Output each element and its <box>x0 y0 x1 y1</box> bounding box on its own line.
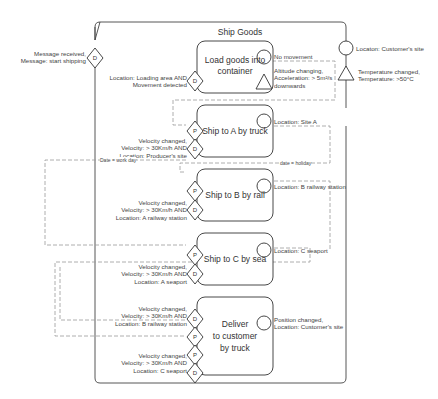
exit-label-deliver: Position changed, Location: Customer's s… <box>274 316 343 331</box>
flow-label-holiday: date = holiday <box>280 160 311 167</box>
entry-symbol: D <box>190 206 200 214</box>
port-symbol: P <box>190 333 200 341</box>
end-event-label: Locaton: Customer's site <box>356 45 424 52</box>
entry-symbol: D <box>190 77 200 85</box>
port-symbol: P <box>190 351 200 359</box>
entry-symbol: D <box>190 145 200 153</box>
entry-symbol: D <box>190 369 200 377</box>
port-symbol: P <box>190 251 200 259</box>
entry-label-truck: Velocity changed, Velocity: > 30Km/h AND… <box>119 137 187 159</box>
port-symbol: P <box>190 187 200 195</box>
exception-label: Temperature changed, Temperature: >50°C <box>358 68 420 83</box>
activity-title-sea[interactable]: Ship to C by sea <box>200 254 270 265</box>
exit-label-rail: Location: B railway station <box>274 183 346 190</box>
flow-label-work-day: Date = work day <box>100 157 136 164</box>
activity-title-rail[interactable]: Ship to B by rail <box>200 190 270 201</box>
exit-label-load: No movement <box>274 53 313 60</box>
exception-label-load: Altitude changing, Acceleration: > 5m²/s… <box>274 67 332 89</box>
activity-title-truck[interactable]: Ship to A by truck <box>200 126 270 137</box>
port-symbol: P <box>190 127 200 135</box>
activity-title-load[interactable]: Load goods into container <box>200 55 270 77</box>
entry-label-deliver-sea: Velocity changed, Velocity: > 30Km/h AND… <box>121 352 187 374</box>
exit-label-truck: Location: Site A <box>274 118 317 125</box>
start-event-label: Message received, Message: start shippin… <box>21 50 86 65</box>
activity-title-deliver[interactable]: Deliver to customer by truck <box>200 318 270 354</box>
start-event-symbol: D <box>90 54 100 62</box>
entry-symbol: D <box>190 270 200 278</box>
entry-symbol: D <box>190 315 200 323</box>
entry-label-deliver-rail: Velocity changed, Velocity: > 30Km/h AND… <box>115 305 187 327</box>
entry-label-load: Location: Loading area AND Movement dete… <box>110 74 187 89</box>
process-title: Ship Goods <box>205 27 275 38</box>
exit-label-sea: Location: C seaport <box>274 247 328 254</box>
entry-label-rail: Velocity changed, Velocity: > 30Km/h AND… <box>116 199 187 221</box>
entry-label-sea: Velocity changed, Velocity: > 30Km/h AND… <box>121 263 187 285</box>
